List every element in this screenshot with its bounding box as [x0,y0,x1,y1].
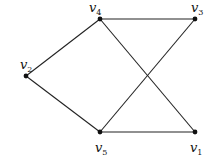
node-v3 [193,17,198,22]
node-v2 [24,74,29,79]
label-v4: v4 [89,0,101,17]
label-v3: v3 [191,0,203,17]
edge-v2-v5 [26,76,100,132]
label-v2: v2 [20,57,32,74]
labels: v1v2v3v4v5 [20,0,203,157]
graph-diagram: v1v2v3v4v5 [0,0,211,158]
edges [26,19,195,132]
nodes [24,17,198,135]
label-v5: v5 [95,140,107,157]
label-v1: v1 [190,140,202,157]
edge-v4-v2 [26,19,100,76]
node-v1 [193,130,198,135]
node-v4 [98,17,103,22]
node-v5 [98,130,103,135]
